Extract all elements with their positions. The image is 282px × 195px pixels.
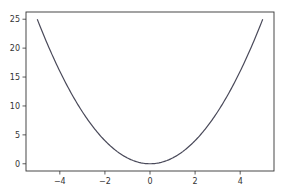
x-tick-label: 0 — [147, 177, 152, 186]
y-tick-label: 20 — [10, 44, 20, 53]
x-tick-label: 2 — [193, 177, 198, 186]
y-tick-label: 0 — [15, 160, 20, 169]
axes-frame — [26, 12, 274, 171]
y-tick-label: 15 — [10, 73, 20, 82]
x-tick-label: −4 — [54, 177, 66, 186]
parabola-line — [37, 19, 262, 164]
y-axis-ticks: 0510152025 — [10, 15, 26, 169]
y-tick-label: 5 — [15, 131, 20, 140]
x-tick-label: 4 — [238, 177, 243, 186]
x-axis-ticks: −4−2024 — [54, 171, 243, 186]
y-tick-label: 25 — [10, 15, 20, 24]
x-tick-label: −2 — [99, 177, 111, 186]
parabola-chart: −4−2024 0510152025 — [0, 0, 282, 195]
y-tick-label: 10 — [10, 102, 20, 111]
